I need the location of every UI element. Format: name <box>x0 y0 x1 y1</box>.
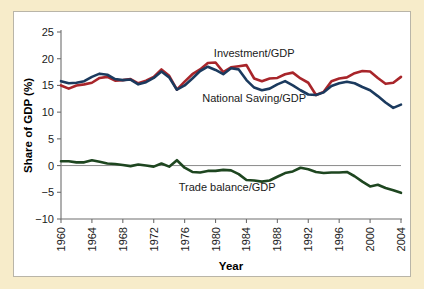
y-axis-title: Share of GDP (%) <box>22 78 34 173</box>
series-label-national-saving-gdp: National Saving/GDP <box>202 92 306 104</box>
figure-panel: −10−50510152025 196019641968197219761980… <box>13 11 411 277</box>
x-tick-label: 1964 <box>86 227 98 251</box>
x-tick-label: 2004 <box>395 227 407 251</box>
y-tick-label: 0 <box>48 160 54 172</box>
series-label-investment-gdp: Investment/GDP <box>214 47 295 59</box>
x-axis-ticks: 1960196419681972197619801984198819921996… <box>55 219 407 251</box>
y-tick-label: 5 <box>48 133 54 145</box>
x-tick-label: 1968 <box>117 227 129 251</box>
chart-canvas: −10−50510152025 196019641968197219761980… <box>14 12 412 278</box>
x-tick-label: 1992 <box>302 227 314 251</box>
x-tick-label: 1984 <box>240 227 252 251</box>
x-tick-label: 1976 <box>179 227 191 251</box>
y-tick-label: −10 <box>35 213 54 225</box>
data-series <box>61 62 401 192</box>
y-tick-label: 20 <box>42 53 54 65</box>
x-tick-label: 1980 <box>210 227 222 251</box>
y-tick-label: −5 <box>41 186 54 198</box>
x-axis-title: Year <box>219 260 244 272</box>
x-tick-label: 1972 <box>148 227 160 251</box>
y-tick-label: 25 <box>42 26 54 38</box>
y-axis-ticks: −10−50510152025 <box>35 26 61 225</box>
series-label-trade-balance-gdp: Trade balance/GDP <box>179 181 276 193</box>
x-tick-label: 1960 <box>55 227 67 251</box>
line-chart: −10−50510152025 196019641968197219761980… <box>14 12 412 278</box>
x-tick-label: 1996 <box>333 227 345 251</box>
y-tick-label: 10 <box>42 106 54 118</box>
y-tick-label: 15 <box>42 79 54 91</box>
x-tick-label: 1988 <box>271 227 283 251</box>
x-tick-label: 2000 <box>364 227 376 251</box>
